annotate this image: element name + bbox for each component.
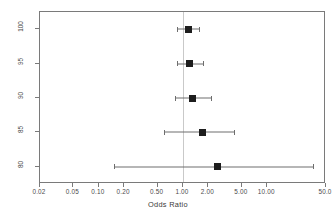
x-axis-tick-label: 5.00 xyxy=(234,188,247,195)
x-axis-tick xyxy=(266,183,267,187)
point-estimate-marker xyxy=(199,129,206,136)
y-axis-tick-label: 80 xyxy=(17,152,24,176)
x-axis-tick xyxy=(241,183,242,187)
x-axis-tick-label: 0.20 xyxy=(117,188,130,195)
x-axis-tick-label: 0.05 xyxy=(66,188,79,195)
plot-area xyxy=(39,11,325,183)
x-axis-tick xyxy=(98,183,99,187)
x-axis-tick-label: 50.0 xyxy=(318,188,331,195)
ci-upper-cap xyxy=(211,96,212,101)
ci-lower-cap xyxy=(175,96,176,101)
x-axis-tick-label: 2.00 xyxy=(201,188,214,195)
ci-upper-cap xyxy=(199,27,200,32)
y-axis-tick xyxy=(35,166,39,167)
x-axis-title: Odds Ratio xyxy=(0,200,336,209)
point-estimate-marker xyxy=(185,26,192,33)
y-axis-tick xyxy=(35,28,39,29)
x-axis-tick-label: 0.02 xyxy=(32,188,45,195)
forest-plot-figure: Specificity(%) Odds Ratio 100959085800.0… xyxy=(0,0,336,219)
x-axis-tick xyxy=(72,183,73,187)
ci-lower-cap xyxy=(164,130,165,135)
y-axis-tick-label: 100 xyxy=(17,15,24,39)
point-estimate-marker xyxy=(186,60,193,67)
point-estimate-marker xyxy=(214,163,221,170)
ci-lower-cap xyxy=(114,164,115,169)
y-axis-tick xyxy=(35,63,39,64)
x-axis-tick xyxy=(123,183,124,187)
x-axis-tick xyxy=(39,183,40,187)
x-axis-tick xyxy=(157,183,158,187)
y-axis-tick-label: 90 xyxy=(17,84,24,108)
x-axis-tick xyxy=(325,183,326,187)
y-axis-tick xyxy=(35,131,39,132)
y-axis-tick-label: 85 xyxy=(17,118,24,142)
ci-lower-cap xyxy=(177,61,178,66)
x-axis-tick-label: 0.10 xyxy=(91,188,104,195)
ci-upper-cap xyxy=(313,164,314,169)
point-estimate-marker xyxy=(189,95,196,102)
ci-upper-cap xyxy=(203,61,204,66)
y-axis-tick-label: 95 xyxy=(17,49,24,73)
x-axis-tick xyxy=(207,183,208,187)
x-axis-tick-label: 1.00 xyxy=(175,188,188,195)
x-axis-tick xyxy=(182,183,183,187)
y-axis-tick xyxy=(35,97,39,98)
x-axis-tick-label: 10.00 xyxy=(258,188,275,195)
ci-upper-cap xyxy=(234,130,235,135)
plot-inner xyxy=(40,12,324,182)
x-axis-tick-label: 0.50 xyxy=(150,188,163,195)
confidence-interval-line xyxy=(114,166,313,167)
ci-lower-cap xyxy=(177,27,178,32)
